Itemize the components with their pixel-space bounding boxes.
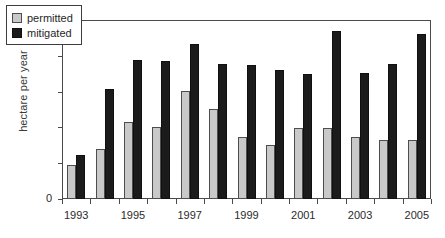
bar-mitigated-1996 — [161, 61, 170, 199]
chart-legend: permitted mitigated — [6, 5, 82, 45]
legend-item-permitted: permitted — [12, 10, 73, 25]
x-axis-tickmark — [317, 199, 318, 204]
x-axis-tickmark — [289, 199, 290, 204]
bar-permitted-1999 — [238, 137, 247, 199]
bar-group — [374, 20, 402, 199]
bar-mitigated-1995 — [133, 60, 142, 199]
x-axis-tickmark — [232, 199, 233, 204]
bar-group — [176, 20, 204, 199]
bar-permitted-1998 — [209, 109, 218, 199]
mitigated-swatch-icon — [12, 28, 22, 38]
bar-mitigated-2005 — [417, 34, 426, 199]
bar-mitigated-1998 — [218, 64, 227, 199]
x-axis-tickmark — [261, 199, 262, 204]
chart-figure: hectare per year 5,00010,00015,00020,000… — [0, 0, 445, 238]
bar-permitted-1993 — [67, 165, 76, 199]
legend-label-permitted: permitted — [27, 12, 73, 24]
legend-item-mitigated: mitigated — [12, 25, 73, 40]
x-axis-label-1995: 1995 — [103, 209, 163, 221]
x-axis: 1993199519971999200120032005 — [62, 199, 431, 237]
bar-mitigated-2002 — [332, 31, 341, 199]
y-axis-zero-label: 0 — [0, 192, 52, 204]
bar-mitigated-2003 — [360, 73, 369, 199]
x-axis-tickmark — [204, 199, 205, 204]
bar-permitted-2003 — [351, 137, 360, 199]
bar-group — [261, 20, 289, 199]
bar-group — [232, 20, 260, 199]
bar-group — [318, 20, 346, 199]
x-axis-label-2005: 2005 — [387, 209, 445, 221]
x-axis-tickmark — [62, 199, 63, 204]
bar-permitted-1997 — [181, 91, 190, 199]
legend-label-mitigated: mitigated — [27, 27, 72, 39]
x-axis-label-1999: 1999 — [217, 209, 277, 221]
bar-group — [119, 20, 147, 199]
x-axis-tickmark — [119, 199, 120, 204]
x-axis-label-1997: 1997 — [160, 209, 220, 221]
plot-area — [62, 20, 431, 199]
x-axis-tickmark — [176, 199, 177, 204]
bar-group — [289, 20, 317, 199]
bar-group — [62, 20, 90, 199]
x-axis-label-2001: 2001 — [273, 209, 333, 221]
bar-groups — [62, 20, 431, 199]
bar-group — [204, 20, 232, 199]
x-axis-tickmark — [147, 199, 148, 204]
bar-permitted-1994 — [96, 149, 105, 199]
bar-group — [403, 20, 431, 199]
bar-mitigated-1994 — [105, 89, 114, 199]
bar-permitted-2002 — [323, 128, 332, 199]
x-axis-tickmark — [346, 199, 347, 204]
bar-permitted-1996 — [152, 127, 161, 199]
bar-permitted-2004 — [379, 140, 388, 199]
x-axis-tickmark — [374, 199, 375, 204]
bar-permitted-2001 — [294, 128, 303, 199]
x-axis-tickmark — [403, 199, 404, 204]
bar-permitted-2005 — [408, 140, 417, 199]
bar-group — [147, 20, 175, 199]
bar-mitigated-1993 — [76, 155, 85, 199]
bar-mitigated-2004 — [388, 64, 397, 199]
x-axis-label-2003: 2003 — [330, 209, 390, 221]
bar-mitigated-1999 — [247, 65, 256, 199]
permitted-swatch-icon — [12, 13, 22, 23]
bar-mitigated-2001 — [303, 74, 312, 199]
x-axis-label-1993: 1993 — [46, 209, 106, 221]
bar-permitted-2000 — [266, 145, 275, 199]
x-axis-tickmark — [90, 199, 91, 204]
x-axis-tickmark — [431, 199, 432, 204]
bar-mitigated-1997 — [190, 44, 199, 199]
bar-group — [90, 20, 118, 199]
bar-group — [346, 20, 374, 199]
bar-permitted-1995 — [124, 122, 133, 199]
bar-mitigated-2000 — [275, 70, 284, 199]
